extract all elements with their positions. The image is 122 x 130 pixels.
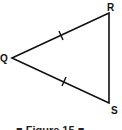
triangle-diagram: Q R S ■ Figure 15 ■ (0, 0, 122, 130)
triangle-qrs (12, 13, 109, 103)
vertex-label-s: S (111, 105, 118, 116)
figure-caption: ■ Figure 15 ■ (16, 124, 84, 130)
vertex-label-r: R (107, 2, 115, 13)
vertex-label-q: Q (0, 53, 8, 64)
